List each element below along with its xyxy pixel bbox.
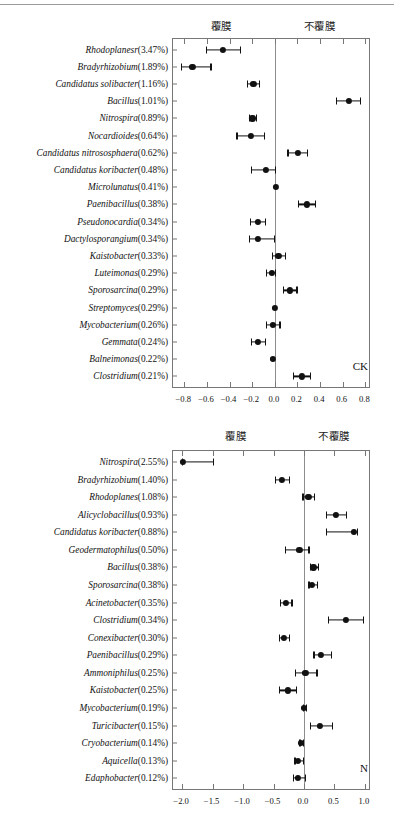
row-label: Dactylosporangium(0.34%) [64, 233, 168, 244]
x-tick-top [184, 39, 185, 44]
row-axis-tick [172, 532, 177, 533]
row-axis-tick [172, 101, 177, 102]
row-axis-tick [172, 66, 177, 67]
row-label: Candidatus solibacter(1.16%) [55, 79, 168, 90]
row-label: Mycobacterium(0.19%) [79, 702, 168, 713]
error-bar-cap-high [360, 98, 361, 105]
x-tick-label: −0.6 [198, 394, 214, 404]
row-label: Bacillus(0.38%) [107, 562, 168, 573]
zero-reference-line [304, 451, 305, 789]
x-tick-label: 0.0 [298, 796, 309, 806]
error-bar-cap-low [293, 775, 294, 782]
row-axis-tick [172, 135, 177, 136]
row-label: Nitrospira(2.55%) [99, 456, 168, 467]
x-tick-top [230, 39, 231, 44]
error-bar-cap-low [250, 218, 251, 225]
panel-tag: CK [353, 360, 368, 372]
x-tick-bottom [252, 382, 253, 387]
plot-frame-ck [172, 38, 370, 388]
error-bar-cap-low [310, 722, 311, 729]
row-axis-tick [172, 290, 177, 291]
row-axis-tick [172, 187, 177, 188]
error-bar-cap-low [272, 253, 273, 260]
row-axis-tick [172, 778, 177, 779]
error-bar-cap-high [265, 339, 266, 346]
row-axis-tick [172, 567, 177, 568]
row-label: Clostridium(0.21%) [93, 371, 168, 382]
axis-header-right: 不覆膜 [318, 428, 350, 443]
x-tick-top [243, 451, 244, 456]
x-tick-label: 0.6 [336, 394, 347, 404]
row-label: Balneimonas(0.22%) [89, 354, 168, 365]
x-tick-bottom [184, 382, 185, 387]
row-axis-tick [172, 549, 177, 550]
row-axis-tick [172, 497, 177, 498]
row-label: Conexibacter(0.30%) [88, 632, 168, 643]
row-label: Candidatus nitrososphaera(0.62%) [37, 147, 168, 158]
error-bar-cap-high [363, 617, 364, 624]
error-bar-cap-high [274, 235, 275, 242]
x-tick-label: −0.8 [176, 394, 192, 404]
error-bar-cap-high [259, 81, 260, 88]
error-bar-cap-high [307, 149, 308, 156]
x-tick-bottom [230, 382, 231, 387]
error-bar-cap-low [293, 373, 294, 380]
row-label: Gemmata(0.24%) [102, 337, 168, 348]
row-axis-tick [172, 221, 177, 222]
x-tick-label: 0.0 [268, 394, 279, 404]
row-label: Ammoniphilus(0.25%) [84, 667, 168, 678]
row-axis-tick [172, 238, 177, 239]
axis-header-right: 不覆膜 [304, 18, 336, 33]
panel-tag: N [360, 762, 368, 774]
error-bar-cap-high [240, 46, 241, 53]
x-tick-bottom [213, 784, 214, 789]
x-tick-label: −0.4 [221, 394, 237, 404]
error-bar-cap-low [275, 476, 276, 483]
error-bar-cap-low [336, 98, 337, 105]
x-tick-bottom [365, 784, 366, 789]
figure-page: 覆膜不覆膜−0.8−0.6−0.4−0.20.00.20.40.60.8Rhod… [0, 0, 394, 829]
error-bar-cap-low [280, 599, 281, 606]
row-label: Clostridium(0.34%) [93, 615, 168, 626]
error-bar-cap-high [308, 546, 309, 553]
error-bar-cap-low [279, 634, 280, 641]
row-label: Bacillus(1.01%) [107, 96, 168, 107]
x-tick-bottom [297, 382, 298, 387]
row-axis-tick [172, 307, 177, 308]
error-bar-cap-high [265, 218, 266, 225]
row-axis-tick [172, 655, 177, 656]
error-bar-cap-low [283, 287, 284, 294]
row-label: Rhodoplanes(1.08%) [89, 492, 168, 503]
row-axis-tick [172, 690, 177, 691]
x-tick-label: 0.4 [314, 394, 325, 404]
row-label: Luteimonas(0.29%) [94, 268, 168, 279]
row-axis-tick [172, 256, 177, 257]
x-tick-label: −1.0 [234, 796, 250, 806]
row-axis-tick [172, 637, 177, 638]
error-bar-cap-high [310, 373, 311, 380]
row-label: Paenibacillus(0.29%) [87, 650, 168, 661]
row-axis-tick [172, 725, 177, 726]
x-tick-bottom [243, 784, 244, 789]
row-label: Acinetobacter(0.35%) [86, 597, 168, 608]
row-label: Candidatus koribacter(0.48%) [54, 165, 168, 176]
row-label: Streptomyces(0.29%) [89, 302, 168, 313]
error-bar-cap-low [247, 81, 248, 88]
x-tick-top [252, 39, 253, 44]
row-label: Bradyrhizobium(1.40%) [78, 474, 168, 485]
x-tick-label: 0.2 [291, 394, 302, 404]
row-axis-tick [172, 584, 177, 585]
row-axis-tick [172, 273, 177, 274]
error-bar-cap-high [314, 494, 315, 501]
row-label: Cryobacterium(0.14%) [81, 738, 168, 749]
error-bar-cap-high [256, 115, 257, 122]
error-bar-cap-low [285, 546, 286, 553]
panel-n: 覆膜不覆膜−2.0−1.5−1.0−0.50.00.51.0Nitrospira… [0, 418, 394, 818]
x-tick-bottom [304, 784, 305, 789]
x-tick-top [275, 39, 276, 44]
row-label: Nitrospira(0.89%) [99, 113, 168, 124]
error-bar-cap-low [206, 46, 207, 53]
error-bar-cap-low [249, 235, 250, 242]
error-bar-cap-low [251, 167, 252, 174]
row-axis-tick [172, 514, 177, 515]
